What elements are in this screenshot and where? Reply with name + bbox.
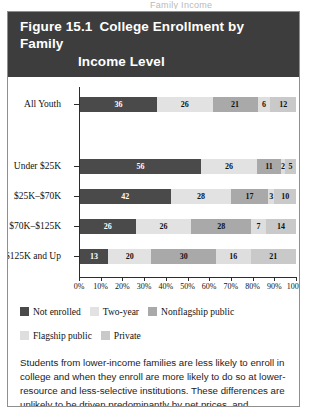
x-axis-tick-label: 30% — [137, 282, 152, 291]
bar-segment: 17 — [231, 189, 268, 204]
bar-segment: 14 — [266, 219, 296, 234]
chart-legend: Not enrolledTwo-yearNonflagship publicFl… — [8, 295, 299, 350]
bar-segment: 10 — [274, 189, 296, 204]
legend-row: Not enrolledTwo-yearNonflagship public — [20, 297, 299, 321]
legend-swatch-icon — [20, 307, 29, 316]
bar-row: All Youth362621612 — [8, 97, 299, 112]
bar-row: Under $25K56261125 — [8, 159, 299, 174]
bar-segment: 13 — [80, 249, 108, 264]
category-label: $70K–$125K — [7, 219, 61, 234]
x-axis-tick — [231, 277, 232, 281]
figure-title: Figure 15.1College Enrollment by Family … — [20, 18, 289, 70]
chart-plot-area: All Youth362621612Under $25K56261125$25K… — [8, 77, 299, 295]
figure-caption: Students from lower-income families are … — [8, 350, 299, 407]
x-axis-tick — [274, 277, 275, 281]
legend-item[interactable]: Not enrolled — [20, 298, 81, 321]
category-label: Under $25K — [7, 159, 61, 174]
legend-swatch-icon — [148, 307, 157, 316]
legend-label: Flagship public — [33, 331, 92, 341]
figure-title-line2: Income Level — [20, 53, 289, 70]
bar-segment: 28 — [191, 219, 251, 234]
x-axis-tick-label: 50% — [180, 282, 195, 291]
x-axis-tick — [101, 277, 102, 281]
category-label: $25K–$70K — [7, 189, 61, 204]
bar-segment: 7 — [251, 219, 266, 234]
x-axis-tick — [296, 277, 297, 281]
bar-row: $70K–$125K262628714 — [8, 219, 299, 234]
legend-item[interactable]: Flagship public — [20, 322, 92, 345]
stacked-bar: 56261125 — [80, 159, 296, 174]
x-axis-tick-label: 90% — [267, 282, 282, 291]
bar-segment: 6 — [258, 97, 271, 112]
bar-segment: 26 — [80, 219, 136, 234]
x-axis-tick — [79, 277, 80, 281]
bar-segment: 26 — [136, 219, 192, 234]
x-axis-tick-label: 20% — [115, 282, 130, 291]
x-axis-tick-label: 70% — [224, 282, 239, 291]
category-label: All Youth — [7, 97, 61, 112]
legend-item[interactable]: Two-year — [90, 298, 139, 321]
legend-swatch-icon — [90, 307, 99, 316]
page-bleed-text: Family Income — [150, 0, 300, 9]
x-axis-tick — [122, 277, 123, 281]
x-axis-ticks — [79, 277, 296, 281]
bar-segment: 12 — [270, 97, 296, 112]
x-axis-tick-label: 10% — [93, 282, 108, 291]
bar-segment: 36 — [80, 97, 157, 112]
figure-header: Figure 15.1College Enrollment by Family … — [8, 12, 299, 77]
legend-label: Not enrolled — [33, 307, 81, 317]
legend-item[interactable]: Private — [101, 322, 141, 345]
bar-segment: 26 — [157, 97, 213, 112]
category-label: $125K and Up — [7, 249, 61, 264]
x-axis-tick-label: 40% — [158, 282, 173, 291]
stacked-bar: 362621612 — [80, 97, 296, 112]
bar-segment: 20 — [108, 249, 151, 264]
x-axis-tick — [188, 277, 189, 281]
figure-page: Family Income Figure 15.1College Enrollm… — [0, 0, 309, 413]
x-axis-tick — [144, 277, 145, 281]
x-axis-tick-label: 60% — [202, 282, 217, 291]
legend-label: Private — [114, 331, 141, 341]
x-axis-tick-label: 100% — [287, 282, 300, 291]
bar-segment: 26 — [201, 159, 257, 174]
x-axis-tick — [166, 277, 167, 281]
figure-container: Figure 15.1College Enrollment by Family … — [7, 11, 300, 407]
legend-row: Flagship publicPrivate — [20, 321, 299, 345]
legend-label: Two-year — [103, 307, 139, 317]
x-axis-tick — [253, 277, 254, 281]
bar-segment: 28 — [171, 189, 231, 204]
stacked-bar-chart: All Youth362621612Under $25K56261125$25K… — [8, 77, 299, 295]
bar-row: $25K–$70K422817310 — [8, 189, 299, 204]
bar-segment: 16 — [216, 249, 251, 264]
stacked-bar: 422817310 — [80, 189, 296, 204]
stacked-bar: 262628714 — [80, 219, 296, 234]
figure-number: Figure 15.1 — [20, 19, 92, 34]
x-axis-tick-labels: 0%10%20%30%40%50%60%70%80%90%100% — [8, 282, 299, 294]
bar-segment: 5 — [285, 159, 296, 174]
x-axis-tick-label: 80% — [245, 282, 260, 291]
legend-item[interactable]: Nonflagship public — [148, 298, 234, 321]
bar-row: $125K and Up1320301621 — [8, 249, 299, 264]
bar-segment: 42 — [80, 189, 171, 204]
bar-segment: 11 — [257, 159, 281, 174]
x-axis-tick-label: 0% — [74, 282, 85, 291]
legend-label: Nonflagship public — [161, 307, 234, 317]
bar-segment: 21 — [251, 249, 296, 264]
x-axis-tick — [209, 277, 210, 281]
legend-swatch-icon — [20, 331, 29, 340]
bar-segment: 56 — [80, 159, 201, 174]
stacked-bar: 1320301621 — [80, 249, 296, 264]
caption-text: Students from lower-income families are … — [20, 357, 285, 407]
legend-swatch-icon — [101, 331, 110, 340]
bar-segment: 21 — [213, 97, 258, 112]
bar-segment: 30 — [151, 249, 216, 264]
